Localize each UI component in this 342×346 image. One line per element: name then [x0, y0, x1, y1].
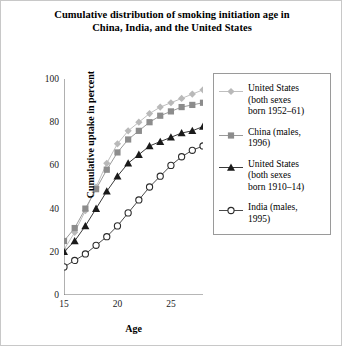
- data-point-marker: [199, 86, 203, 93]
- data-point-marker: [146, 119, 152, 125]
- data-point-marker: [189, 102, 195, 108]
- y-tick-label: 100: [45, 74, 59, 84]
- y-tick-label: 60: [50, 160, 60, 170]
- y-tick-label: 20: [50, 247, 60, 257]
- data-point-marker: [189, 147, 195, 153]
- chart-title-line-1: Cumulative distribution of smoking initi…: [1, 8, 342, 21]
- legend-entry: India (males,1995): [218, 202, 325, 225]
- data-point-marker: [114, 149, 120, 155]
- data-point-marker: [64, 238, 67, 244]
- legend-marker-icon: [218, 160, 244, 173]
- data-point-marker: [81, 222, 89, 229]
- data-point-marker: [179, 154, 185, 160]
- chart-title-line-2: China, India, and the United States: [1, 21, 342, 34]
- plot-area: 020406080100 152025 Cumulative uptake in…: [64, 79, 203, 295]
- data-point-marker: [72, 257, 78, 263]
- chart-title: Cumulative distribution of smoking initi…: [1, 8, 342, 34]
- data-point-marker: [72, 225, 78, 231]
- data-point-marker: [157, 173, 163, 179]
- legend-label: China (males,1996): [248, 127, 301, 150]
- data-point-marker: [93, 242, 99, 248]
- data-point-marker: [135, 151, 143, 158]
- legend-marker-icon: [218, 203, 244, 216]
- data-point-marker: [125, 136, 131, 142]
- x-tick-label: 15: [59, 299, 69, 309]
- y-tick-label: 40: [50, 204, 60, 214]
- legend-marker-icon: [218, 84, 244, 97]
- legend-entry: China (males,1996): [218, 127, 325, 150]
- data-point-marker: [157, 113, 163, 119]
- data-point-marker: [168, 108, 174, 114]
- data-point-marker: [167, 99, 174, 106]
- data-point-marker: [189, 91, 196, 98]
- legend-label: United States(both sexesborn 1910–14): [248, 159, 304, 194]
- data-point-marker: [200, 100, 203, 106]
- data-point-marker: [114, 223, 120, 229]
- x-tick-label: 20: [113, 299, 123, 309]
- data-point-marker: [157, 103, 164, 110]
- data-point-marker: [146, 142, 154, 149]
- chart-legend: United States(both sexesborn 1952–61)Chi…: [213, 73, 331, 235]
- data-point-marker: [136, 197, 142, 203]
- data-point-marker: [156, 138, 164, 145]
- data-point-marker: [146, 184, 152, 190]
- data-point-marker: [179, 104, 185, 110]
- legend-marker-icon: [218, 128, 244, 141]
- x-tick-label: 25: [166, 299, 176, 309]
- data-point-marker: [125, 210, 131, 216]
- legend-entry: United States(both sexesborn 1952–61): [218, 83, 325, 118]
- data-point-marker: [136, 128, 142, 134]
- y-axis-label: Cumulative uptake in percent: [85, 55, 96, 215]
- data-point-marker: [200, 143, 203, 149]
- y-tick-label: 80: [50, 117, 60, 127]
- data-point-marker: [104, 234, 110, 240]
- data-point-marker: [82, 251, 88, 257]
- data-point-marker: [64, 264, 67, 270]
- data-point-marker: [199, 123, 203, 130]
- data-point-marker: [188, 127, 196, 134]
- data-point-marker: [178, 95, 185, 102]
- data-point-marker: [71, 237, 79, 244]
- data-point-marker: [103, 187, 111, 194]
- x-axis-label: Age: [64, 323, 203, 334]
- legend-entry: United States(both sexesborn 1910–14): [218, 159, 325, 194]
- data-point-marker: [167, 133, 175, 140]
- legend-label: India (males,1995): [248, 202, 298, 225]
- data-point-marker: [104, 167, 110, 173]
- data-point-marker: [124, 159, 132, 166]
- figure-container: Cumulative distribution of smoking initi…: [0, 0, 342, 346]
- legend-label: United States(both sexesborn 1952–61): [248, 83, 304, 118]
- data-point-marker: [168, 162, 174, 168]
